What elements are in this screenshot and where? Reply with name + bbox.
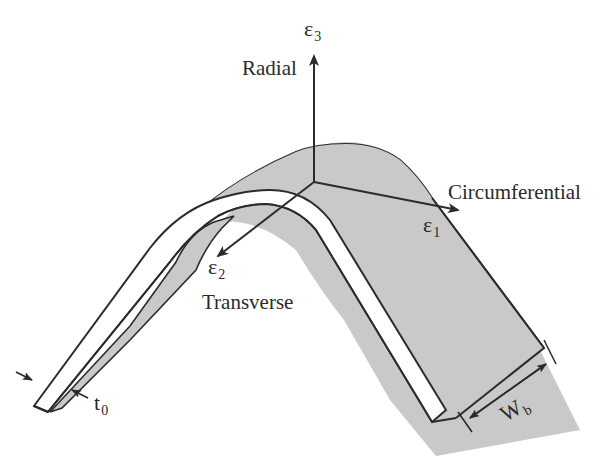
thickness-arrow-left: [16, 372, 32, 380]
radial-label: Radial: [242, 56, 297, 81]
circumferential-strain-label: ε1: [423, 212, 440, 238]
thickness-label: t0: [94, 390, 108, 416]
transverse-label: Transverse: [202, 290, 293, 315]
circumferential-label: Circumferential: [448, 180, 581, 205]
radial-strain-label: ε3: [304, 16, 321, 42]
width-extension-right: [544, 340, 556, 364]
diagram-graphic: [0, 0, 606, 456]
transverse-strain-label: ε2: [208, 254, 225, 280]
bent-strip-diagram: ε3 Radial Circumferential ε1 ε2 Transver…: [0, 0, 606, 456]
